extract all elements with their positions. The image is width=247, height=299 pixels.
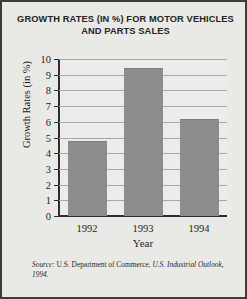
y-axis-tick-label: 9 [46, 69, 51, 80]
x-axis-tick-label: 1992 [77, 223, 98, 234]
y-axis-tick [54, 200, 59, 201]
source-prefix: Source: [32, 260, 55, 269]
y-axis-tick [54, 216, 59, 217]
y-axis-tick [54, 138, 59, 139]
y-axis-tick-label: 3 [46, 163, 51, 174]
bar [68, 141, 107, 216]
y-axis-tick-label: 10 [41, 54, 52, 65]
plot-area: 012345678910 199219931994 [59, 59, 227, 216]
y-axis-tick [54, 169, 59, 170]
y-axis-tick [54, 106, 59, 107]
y-axis-tick [54, 153, 59, 154]
chart-title: GROWTH RATES (IN %) FOR MOTOR VEHICLES A… [12, 13, 239, 37]
y-axis-tick-label: 8 [46, 85, 51, 96]
bar [124, 68, 163, 216]
y-axis-tick-label: 1 [46, 195, 51, 206]
bar [180, 119, 219, 216]
source-publisher: U.S. Department of Commerce, [55, 260, 153, 269]
x-axis-tick-label: 1993 [133, 223, 154, 234]
y-axis-tick-label: 5 [46, 132, 51, 143]
chart-figure: GROWTH RATES (IN %) FOR MOTOR VEHICLES A… [0, 0, 247, 299]
y-axis-tick-label: 0 [46, 211, 51, 222]
y-axis-tick-label: 6 [46, 116, 51, 127]
y-axis-tick [54, 122, 59, 123]
y-axis-tick [54, 59, 59, 60]
y-axis-tick-label: 7 [46, 101, 51, 112]
y-axis-tick [54, 185, 59, 186]
gridline [59, 59, 227, 60]
y-axis-label: Growth Rates (in %) [21, 45, 32, 165]
chart-title-line-2: AND PARTS SALES [81, 26, 170, 36]
y-axis-tick-label: 2 [46, 179, 51, 190]
x-axis-tick-label: 1994 [189, 223, 210, 234]
x-axis-label: Year [59, 237, 227, 249]
source-note: Source: U.S. Department of Commerce, U.S… [32, 260, 232, 279]
y-axis-tick [54, 90, 59, 91]
chart-title-line-1: GROWTH RATES (IN %) FOR MOTOR VEHICLES [17, 14, 234, 24]
y-axis-tick [54, 75, 59, 76]
y-axis-tick-label: 4 [46, 148, 51, 159]
